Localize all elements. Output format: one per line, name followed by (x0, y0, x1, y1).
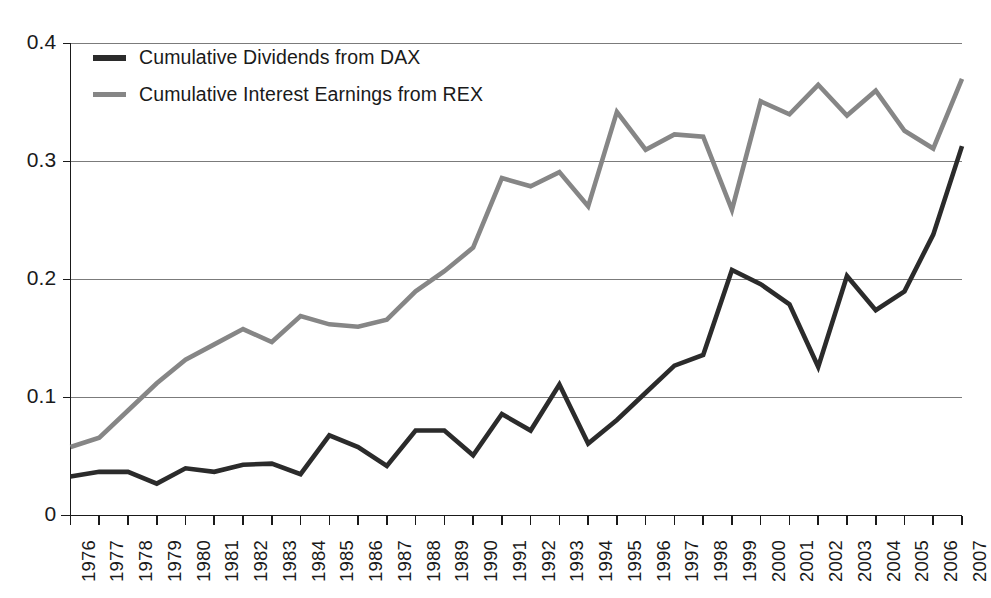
x-axis-tick-label: 1982 (250, 540, 272, 582)
y-axis-tick-label: 0.1 (27, 384, 57, 408)
series-line (71, 146, 963, 483)
legend-color-swatch (93, 55, 126, 61)
x-axis-tick-label: 1986 (365, 540, 387, 582)
x-axis-tick-label: 1991 (509, 540, 531, 582)
x-axis-tick-label: 1980 (193, 540, 215, 582)
x-axis-tick-label: 1988 (423, 540, 445, 582)
y-axis-tick-label: 0 (45, 502, 57, 526)
x-axis-tick-label: 2006 (940, 540, 962, 582)
x-axis-tick-label: 1997 (681, 540, 703, 582)
y-axis-tick-label: 0.2 (27, 266, 57, 290)
x-axis-tick-label: 1977 (106, 540, 128, 582)
legend-color-swatch (93, 92, 126, 97)
x-axis-tick-label: 1983 (279, 540, 301, 582)
x-axis-tick-label: 1989 (451, 540, 473, 582)
x-axis-tick-label: 1981 (221, 540, 243, 582)
x-axis-tick-label: 2000 (768, 540, 790, 582)
x-axis-tick-label: 1979 (164, 540, 186, 582)
x-axis-tick-label: 1993 (566, 540, 588, 582)
x-axis-tick-label: 1992 (538, 540, 560, 582)
x-axis-tick-label: 1987 (394, 540, 416, 582)
x-axis-tick-label: 2002 (825, 540, 847, 582)
x-axis-tick-label: 2003 (854, 540, 876, 582)
x-axis-tick-label: 1978 (135, 540, 157, 582)
x-axis-tick-label: 2004 (883, 540, 905, 582)
x-axis-tick-label: 1976 (78, 540, 100, 582)
x-tick-marks-group (71, 516, 963, 525)
x-axis-tick-label: 1994 (595, 540, 617, 582)
series-line (71, 79, 963, 447)
legend-label: Cumulative Dividends from DAX (139, 46, 420, 69)
x-axis-tick-label: 1998 (710, 540, 732, 582)
x-axis-tick-label: 2007 (969, 540, 991, 582)
legend-label: Cumulative Interest Earnings from REX (139, 83, 483, 106)
x-axis-tick-label: 2001 (796, 540, 818, 582)
x-axis-tick-label: 1985 (336, 540, 358, 582)
y-axis-tick-label: 0.4 (27, 30, 57, 54)
y-axis-tick-label: 0.3 (27, 148, 57, 172)
x-axis-tick-label: 1984 (308, 540, 330, 582)
y-tick-marks-group (63, 44, 71, 516)
legend-item[interactable]: Cumulative Interest Earnings from REX (93, 83, 483, 106)
x-axis-tick-label: 2005 (911, 540, 933, 582)
x-axis-tick-label: 1990 (480, 540, 502, 582)
series-lines-group (71, 79, 963, 484)
axes-group (61, 44, 963, 524)
x-axis-tick-label: 1999 (739, 540, 761, 582)
x-axis-tick-label: 1995 (624, 540, 646, 582)
legend-item[interactable]: Cumulative Dividends from DAX (93, 46, 420, 69)
x-axis-tick-label: 1996 (653, 540, 675, 582)
gridlines-group (71, 44, 963, 516)
